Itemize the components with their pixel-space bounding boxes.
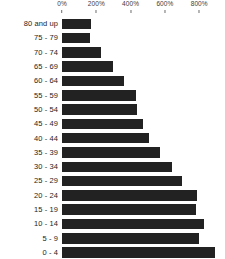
x-axis-tick: 400% (122, 0, 139, 13)
y-axis-category-label: 70 - 74 (0, 48, 58, 58)
bar (62, 219, 204, 230)
bar (62, 247, 215, 258)
bar (62, 90, 136, 101)
y-axis-category-label: 60 - 64 (0, 76, 58, 86)
x-axis-tick-mark (199, 10, 200, 13)
y-axis-category-label: 25 - 29 (0, 176, 58, 186)
y-axis-category-label: 65 - 69 (0, 62, 58, 72)
y-axis-category-label: 75 - 79 (0, 33, 58, 43)
x-axis-tick-mark (61, 10, 62, 13)
chart-row: 70 - 74 (0, 46, 225, 60)
bar (62, 76, 124, 87)
x-axis-tick-label: 200% (88, 0, 105, 8)
y-axis-category-label: 80 and up (0, 19, 58, 29)
bar (62, 162, 172, 173)
bar (62, 133, 149, 144)
x-axis-tick-mark (164, 10, 165, 13)
chart-row: 0 - 4 (0, 246, 225, 259)
y-axis-category-label: 30 - 34 (0, 162, 58, 172)
plot-area: 80 and up75 - 7970 - 7465 - 6960 - 6455 … (0, 16, 225, 259)
y-axis-category-label: 50 - 54 (0, 105, 58, 115)
x-axis-tick-label: 0% (57, 0, 67, 8)
bar (62, 19, 91, 30)
y-axis-category-label: 35 - 39 (0, 148, 58, 158)
chart-row: 5 - 9 (0, 232, 225, 246)
chart-row: 40 - 44 (0, 131, 225, 145)
bar (62, 61, 113, 72)
x-axis-tick: 200% (88, 0, 105, 13)
bar (62, 233, 199, 244)
y-axis-category-label: 0 - 4 (0, 248, 58, 258)
chart-row: 65 - 69 (0, 60, 225, 74)
y-axis-category-label: 10 - 14 (0, 219, 58, 229)
bar (62, 47, 101, 58)
chart-row: 55 - 59 (0, 89, 225, 103)
bar (62, 176, 182, 187)
y-axis-category-label: 40 - 44 (0, 134, 58, 144)
bar (62, 33, 90, 44)
y-axis-category-label: 45 - 49 (0, 119, 58, 129)
y-axis-category-label: 5 - 9 (0, 234, 58, 244)
chart-row: 80 and up (0, 17, 225, 31)
bar (62, 119, 143, 130)
chart-row: 30 - 34 (0, 160, 225, 174)
x-axis-tick-label: 400% (122, 0, 139, 8)
chart-row: 20 - 24 (0, 189, 225, 203)
x-axis-tick: 0% (57, 0, 67, 13)
y-axis-category-label: 20 - 24 (0, 191, 58, 201)
bar (62, 147, 160, 158)
chart-row: 60 - 64 (0, 74, 225, 88)
x-axis-tick: 600% (156, 0, 173, 13)
x-axis-tick-label: 600% (156, 0, 173, 8)
x-axis-tick-label: 800% (191, 0, 208, 8)
y-axis-category-label: 55 - 59 (0, 91, 58, 101)
chart-row: 50 - 54 (0, 103, 225, 117)
chart-row: 15 - 19 (0, 203, 225, 217)
x-axis-tick-mark (96, 10, 97, 13)
chart-row: 35 - 39 (0, 146, 225, 160)
chart-row: 25 - 29 (0, 174, 225, 188)
bar (62, 190, 197, 201)
chart-row: 45 - 49 (0, 117, 225, 131)
y-axis-category-label: 15 - 19 (0, 205, 58, 215)
chart-row: 10 - 14 (0, 217, 225, 231)
chart-row: 75 - 79 (0, 31, 225, 45)
population-bar-chart: 0%200%400%600%800% 80 and up75 - 7970 - … (0, 0, 225, 259)
bar (62, 104, 137, 115)
x-axis: 0%200%400%600%800% (0, 0, 225, 17)
bar (62, 204, 196, 215)
x-axis-tick-mark (130, 10, 131, 13)
x-axis-tick: 800% (191, 0, 208, 13)
